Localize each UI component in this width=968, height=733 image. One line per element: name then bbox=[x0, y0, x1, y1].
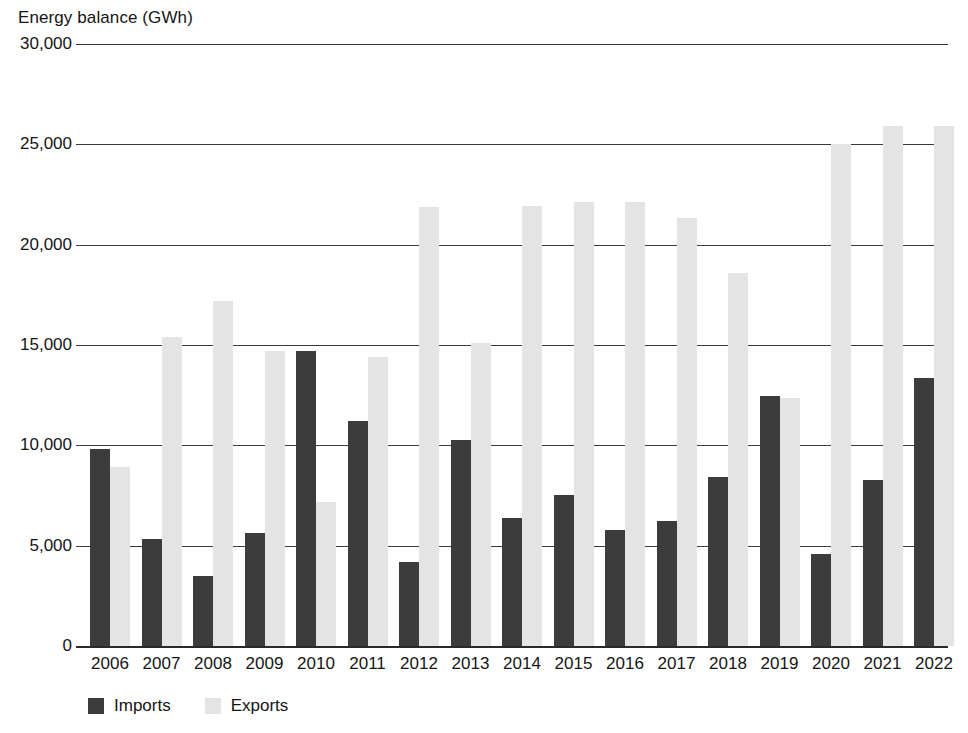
bar-imports-2015 bbox=[554, 495, 574, 647]
x-axis-label: 2021 bbox=[864, 654, 902, 674]
bar-imports-2018 bbox=[708, 477, 728, 646]
y-axis-tick bbox=[76, 546, 88, 547]
bar-exports-2021 bbox=[883, 126, 903, 646]
x-axis-label: 2012 bbox=[400, 654, 438, 674]
bar-exports-2017 bbox=[677, 218, 697, 646]
x-axis-label: 2008 bbox=[194, 654, 232, 674]
bar-imports-2007 bbox=[142, 539, 162, 646]
x-axis-label: 2006 bbox=[91, 654, 129, 674]
bar-exports-2009 bbox=[265, 351, 285, 646]
bar-exports-2010 bbox=[316, 502, 336, 646]
bar-exports-2012 bbox=[419, 207, 439, 646]
plot-area bbox=[88, 44, 948, 646]
bar-exports-2015 bbox=[574, 202, 594, 646]
x-axis-label: 2017 bbox=[658, 654, 696, 674]
y-axis-label: 15,000 bbox=[0, 335, 72, 355]
energy-balance-bar-chart: Energy balance (GWh) 05,00010,00015,0002… bbox=[0, 0, 968, 733]
y-axis-label: 5,000 bbox=[0, 536, 72, 556]
bar-exports-2018 bbox=[728, 273, 748, 646]
x-axis-label: 2011 bbox=[349, 654, 386, 674]
y-axis-label: 20,000 bbox=[0, 235, 72, 255]
x-axis-label: 2013 bbox=[452, 654, 490, 674]
y-axis-label: 25,000 bbox=[0, 134, 72, 154]
x-axis-label: 2015 bbox=[555, 654, 593, 674]
x-axis-label: 2019 bbox=[761, 654, 799, 674]
bar-exports-2013 bbox=[471, 343, 491, 646]
y-axis-label: 0 bbox=[0, 636, 72, 656]
x-axis-label: 2016 bbox=[606, 654, 644, 674]
bar-exports-2011 bbox=[368, 357, 388, 646]
bars-group bbox=[88, 44, 948, 646]
y-axis-tick bbox=[76, 144, 88, 145]
x-axis-label: 2020 bbox=[812, 654, 850, 674]
x-axis-label: 2022 bbox=[915, 654, 953, 674]
legend-label: Imports bbox=[114, 696, 171, 716]
bar-imports-2008 bbox=[193, 576, 213, 646]
bar-imports-2016 bbox=[605, 530, 625, 646]
y-axis-label: 30,000 bbox=[0, 34, 72, 54]
legend-swatch-imports-icon bbox=[88, 698, 104, 714]
bar-imports-2010 bbox=[296, 351, 316, 646]
legend-swatch-exports-icon bbox=[205, 698, 221, 714]
legend-item-imports[interactable]: Imports bbox=[88, 696, 171, 716]
y-axis-tick bbox=[76, 646, 88, 648]
bar-imports-2006 bbox=[90, 449, 110, 646]
x-axis-label: 2014 bbox=[503, 654, 541, 674]
bar-imports-2012 bbox=[399, 562, 419, 646]
bar-imports-2013 bbox=[451, 440, 471, 646]
y-axis-tick bbox=[76, 44, 88, 45]
bar-imports-2009 bbox=[245, 533, 265, 646]
legend: ImportsExports bbox=[88, 696, 288, 716]
bar-imports-2022 bbox=[914, 378, 934, 646]
y-axis-label: 10,000 bbox=[0, 435, 72, 455]
bar-imports-2021 bbox=[863, 480, 883, 646]
x-axis-label: 2018 bbox=[709, 654, 747, 674]
legend-label: Exports bbox=[231, 696, 289, 716]
bar-imports-2019 bbox=[760, 396, 780, 646]
legend-item-exports[interactable]: Exports bbox=[205, 696, 289, 716]
bar-exports-2022 bbox=[934, 126, 954, 646]
bar-imports-2020 bbox=[811, 554, 831, 646]
x-axis-label: 2010 bbox=[297, 654, 335, 674]
bar-exports-2016 bbox=[625, 202, 645, 646]
x-axis-label: 2009 bbox=[246, 654, 284, 674]
bar-exports-2020 bbox=[831, 144, 851, 646]
y-axis-tick bbox=[76, 245, 88, 246]
x-axis-label: 2007 bbox=[143, 654, 181, 674]
y-axis-tick bbox=[76, 345, 88, 346]
y-axis-tick bbox=[76, 445, 88, 446]
bar-imports-2014 bbox=[502, 518, 522, 646]
bar-exports-2019 bbox=[780, 398, 800, 646]
bar-exports-2014 bbox=[522, 206, 542, 646]
bar-exports-2007 bbox=[162, 337, 182, 646]
gridline bbox=[88, 646, 948, 648]
chart-title: Energy balance (GWh) bbox=[18, 8, 193, 28]
bar-imports-2011 bbox=[348, 421, 368, 646]
bar-imports-2017 bbox=[657, 521, 677, 646]
bar-exports-2008 bbox=[213, 301, 233, 646]
bar-exports-2006 bbox=[110, 467, 130, 646]
